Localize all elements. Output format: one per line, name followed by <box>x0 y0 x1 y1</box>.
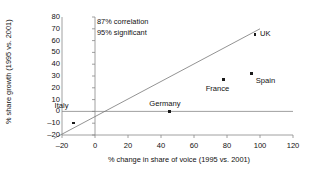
x-tick-label: 100 <box>246 142 274 150</box>
data-point-label: Spain <box>256 77 275 85</box>
y-tick-label: –20 <box>38 131 60 139</box>
x-tick-label: 0 <box>81 142 109 150</box>
data-point <box>254 33 257 36</box>
y-tick-label: –10 <box>38 119 60 127</box>
y-tick-label: 50 <box>38 48 60 56</box>
x-tick-label: 20 <box>114 142 142 150</box>
x-tick-label: –20 <box>48 142 76 150</box>
y-tick-label: 70 <box>38 25 60 33</box>
y-tick-label: 30 <box>38 72 60 80</box>
data-point-label: UK <box>260 30 271 38</box>
data-point <box>222 78 225 81</box>
data-point-label: Italy <box>55 102 69 110</box>
annotation-line-2: 95% significant <box>97 27 148 38</box>
scatter-chart: % share growth (1995 vs. 2001) % change … <box>0 0 316 179</box>
x-tick-label: 80 <box>213 142 241 150</box>
data-point-label: France <box>206 85 230 93</box>
y-tick-label: 20 <box>38 84 60 92</box>
x-tick-label: 40 <box>147 142 175 150</box>
y-tick-label: 40 <box>38 60 60 68</box>
data-point-label: Germany <box>149 100 180 108</box>
annotation-line-1: 87% correlation <box>97 16 148 27</box>
x-tick-label: 120 <box>279 142 307 150</box>
data-point <box>72 122 75 125</box>
y-tick-label: 60 <box>38 37 60 45</box>
y-tick-label: 80 <box>38 13 60 21</box>
correlation-annotation: 87% correlation 95% significant <box>97 16 148 38</box>
x-tick-label: 60 <box>180 142 208 150</box>
data-point <box>168 110 171 113</box>
data-point <box>250 72 253 75</box>
